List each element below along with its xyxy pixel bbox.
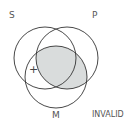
label-p: P — [92, 11, 97, 20]
label-m: M — [52, 111, 60, 120]
label-s: S — [9, 11, 15, 20]
venn-svg — [0, 0, 129, 124]
existence-mark: + — [29, 64, 38, 75]
verdict-label: INVALID — [92, 111, 124, 119]
venn-diagram: S P M INVALID + — [0, 0, 129, 124]
